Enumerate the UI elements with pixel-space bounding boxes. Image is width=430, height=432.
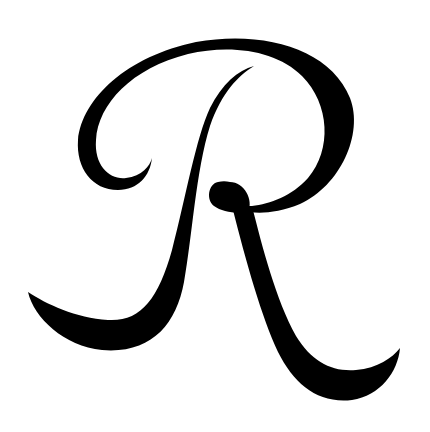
letter-r-artwork <box>0 0 430 432</box>
r-leg-stroke <box>232 206 400 401</box>
script-r-icon <box>0 0 430 432</box>
